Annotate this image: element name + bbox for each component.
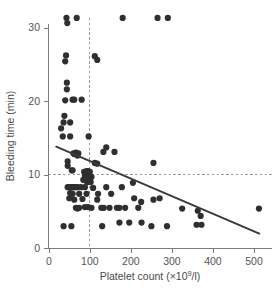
data-point: [64, 86, 70, 92]
data-point: [119, 184, 125, 190]
data-point: [157, 195, 163, 201]
data-point: [88, 179, 94, 185]
data-point: [79, 196, 85, 202]
data-point: [70, 167, 76, 173]
data-point: [71, 197, 77, 203]
data-point: [62, 97, 68, 103]
data-point: [67, 133, 73, 139]
x-axis-title: Platelet count (×109/l): [100, 269, 201, 282]
y-tick-label-20: 20: [28, 95, 40, 107]
data-point: [103, 184, 109, 190]
data-point: [101, 205, 107, 211]
data-point: [135, 205, 141, 211]
x-axis-title-suffix: /l): [192, 270, 201, 282]
y-tick-label-10: 10: [28, 168, 40, 180]
data-point: [94, 197, 100, 203]
x-axis-ticks-group: [50, 249, 255, 254]
data-point: [116, 219, 122, 225]
data-point: [88, 205, 94, 211]
data-point: [62, 58, 68, 64]
data-point: [60, 223, 66, 229]
data-point: [76, 191, 82, 197]
data-point: [60, 133, 66, 139]
regression-line-group: [56, 147, 259, 234]
x-tick-label-500: 500: [245, 255, 263, 267]
data-point: [63, 52, 69, 58]
data-point: [164, 223, 170, 229]
data-point: [122, 205, 128, 211]
x-axis-title-main: Platelet count (×10: [100, 270, 188, 282]
reference-lines-group: [49, 18, 273, 249]
data-point: [79, 97, 85, 103]
data-point: [86, 133, 92, 139]
data-point: [76, 205, 82, 211]
data-point: [154, 15, 160, 21]
axes-group: [49, 24, 273, 249]
y-tick-label-30: 30: [28, 21, 40, 33]
data-point: [95, 191, 101, 197]
x-tick-label-300: 300: [163, 255, 181, 267]
data-point: [120, 15, 126, 21]
data-point: [116, 205, 122, 211]
x-tick-label-400: 400: [204, 255, 222, 267]
data-point: [58, 125, 64, 131]
data-point: [100, 149, 106, 155]
bleeding-time-vs-platelet-count-figure: 0100200300400500 0102030 Platelet count …: [0, 0, 279, 291]
data-point: [150, 160, 156, 166]
data-point: [82, 184, 88, 190]
x-tick-label-200: 200: [122, 255, 140, 267]
data-point: [83, 191, 89, 197]
data-point: [106, 205, 112, 211]
data-point: [138, 199, 144, 205]
data-point: [94, 57, 100, 63]
data-point: [198, 222, 204, 228]
data-point: [90, 185, 96, 191]
data-point: [131, 195, 137, 201]
y-axis-tick-labels: 0102030: [28, 21, 40, 254]
data-point: [126, 219, 132, 225]
scatter-plot: 0100200300400500 0102030 Platelet count …: [0, 0, 279, 291]
data-point: [99, 223, 105, 229]
data-point: [64, 20, 70, 26]
data-point: [64, 80, 70, 86]
data-point: [179, 205, 185, 211]
y-axis-title: Bleeding time (min): [4, 91, 16, 181]
data-point: [111, 149, 117, 155]
x-tick-label-0: 0: [46, 255, 52, 267]
regression-line: [56, 147, 259, 234]
data-point: [71, 97, 77, 103]
y-axis-ticks-group: [44, 29, 49, 249]
data-points-group: [58, 15, 262, 229]
data-point: [150, 197, 156, 203]
x-axis-tick-labels: 0100200300400500: [46, 255, 263, 267]
data-point: [138, 219, 144, 225]
data-point: [68, 223, 74, 229]
data-point: [148, 223, 154, 229]
data-point: [74, 15, 80, 21]
data-point: [256, 205, 262, 211]
data-point: [198, 213, 204, 219]
data-point: [108, 191, 114, 197]
data-point: [61, 113, 67, 119]
data-point: [67, 119, 73, 125]
data-point: [165, 15, 171, 21]
data-point: [60, 119, 66, 125]
x-tick-label-100: 100: [81, 255, 99, 267]
y-tick-label-0: 0: [34, 242, 40, 254]
